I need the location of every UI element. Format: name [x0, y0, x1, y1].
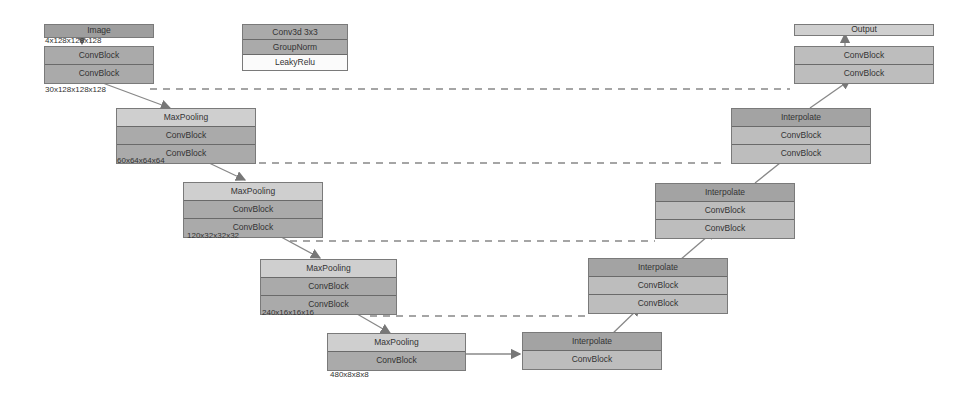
- dim-label: 240x16x16x16: [262, 308, 314, 317]
- block-row: Interpolate: [589, 259, 727, 277]
- legend-row: GroupNorm: [243, 40, 347, 55]
- legend-row: Conv3d 3x3: [243, 25, 347, 40]
- block-row: ConvBlock: [328, 352, 465, 370]
- block-row: MaxPooling: [261, 260, 396, 278]
- arrow-dec4-dec5: [810, 80, 850, 108]
- block-row: ConvBlock: [795, 47, 933, 65]
- encoder-block-4: MaxPooling ConvBlock ConvBlock: [260, 259, 397, 315]
- dim-label: 30x128x128x128: [45, 85, 106, 94]
- block-row: Interpolate: [656, 184, 794, 202]
- block-row: MaxPooling: [328, 334, 465, 352]
- dim-label: 60x64x64x64: [117, 156, 165, 165]
- block-row: ConvBlock: [656, 220, 794, 238]
- dim-label: 480x8x8x8: [330, 370, 369, 379]
- decoder-block-3: Interpolate ConvBlock ConvBlock: [655, 183, 795, 239]
- block-row: ConvBlock: [184, 201, 322, 219]
- block-row: ConvBlock: [45, 65, 153, 83]
- output-label: Output: [795, 25, 933, 35]
- encoder-block-3: MaxPooling ConvBlock ConvBlock: [183, 182, 323, 238]
- block-row: ConvBlock: [261, 278, 396, 296]
- block-row: Interpolate: [523, 333, 661, 351]
- legend-block: Conv3d 3x3 GroupNorm LeakyRelu: [242, 24, 348, 71]
- block-row: ConvBlock: [589, 295, 727, 313]
- decoder-block-2: Interpolate ConvBlock ConvBlock: [588, 258, 728, 314]
- encoder-block-5: MaxPooling ConvBlock: [327, 333, 466, 371]
- block-row: ConvBlock: [732, 127, 870, 145]
- decoder-block-4: Interpolate ConvBlock ConvBlock: [731, 108, 871, 164]
- encoder-block-1: ConvBlock ConvBlock: [44, 46, 154, 84]
- block-row: MaxPooling: [117, 109, 255, 127]
- block-row: ConvBlock: [656, 202, 794, 220]
- block-row: ConvBlock: [523, 351, 661, 369]
- legend-row: LeakyRelu: [243, 55, 347, 70]
- block-row: Interpolate: [732, 109, 870, 127]
- decoder-block-5: ConvBlock ConvBlock: [794, 46, 934, 84]
- block-row: ConvBlock: [795, 65, 933, 83]
- dim-label: 120x32x32x32: [187, 231, 239, 240]
- block-row: ConvBlock: [45, 47, 153, 65]
- block-row: ConvBlock: [117, 127, 255, 145]
- block-row: ConvBlock: [732, 145, 870, 163]
- block-row: ConvBlock: [589, 277, 727, 295]
- input-dim: 4x128x128x128: [45, 36, 102, 45]
- arrow-enc1-enc2: [100, 82, 170, 108]
- decoder-block-1: Interpolate ConvBlock: [522, 332, 662, 370]
- block-row: MaxPooling: [184, 183, 322, 201]
- output-block: Output: [794, 24, 934, 36]
